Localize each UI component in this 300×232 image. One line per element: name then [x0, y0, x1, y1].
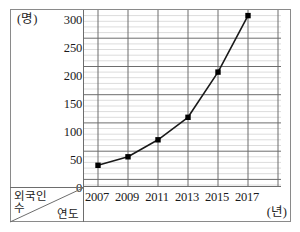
corner-row-label: 외국인 수 [14, 190, 47, 215]
x-tick-label-2017: 2017 [235, 191, 259, 204]
x-tick-label-2015: 2015 [205, 191, 229, 204]
y-tick-label-250: 250 [64, 42, 82, 55]
chart-figure: (명) 300 250 200 150 100 50 0 [0, 0, 300, 232]
x-tick-label-2011: 2011 [145, 191, 169, 204]
y-axis-unit-label: (명) [17, 13, 37, 26]
y-axis-tick-labels: 300 250 200 150 100 50 0 [38, 0, 82, 200]
x-tick-label-2013: 2013 [175, 191, 199, 204]
data-point-markers [95, 13, 250, 168]
corner-row-label-line2: 수 [14, 202, 47, 214]
y-tick-label-150: 150 [64, 98, 82, 111]
data-point-2007 [95, 163, 100, 168]
x-axis-tick-labels: 2007 2009 2011 2013 2015 2017 [83, 191, 283, 207]
y-tick-label-300: 300 [64, 14, 82, 27]
x-axis-unit-label: (년) [267, 206, 287, 219]
corner-col-label: 연도 [57, 209, 79, 221]
axis-corner-legend: 외국인 수 연도 [10, 187, 84, 222]
x-tick-label-2007: 2007 [85, 191, 109, 204]
data-point-2013 [185, 115, 190, 120]
corner-row-label-line1: 외국인 [14, 190, 47, 202]
data-point-2009 [125, 154, 130, 159]
x-tick-label-2009: 2009 [115, 191, 139, 204]
y-tick-label-100: 100 [64, 126, 82, 139]
data-point-2017 [245, 13, 250, 18]
y-tick-label-200: 200 [64, 70, 82, 83]
data-point-2015 [215, 69, 220, 74]
data-point-2011 [155, 137, 160, 142]
plot-area [83, 10, 281, 187]
y-tick-label-50: 50 [70, 154, 82, 167]
data-series-line [84, 10, 281, 187]
